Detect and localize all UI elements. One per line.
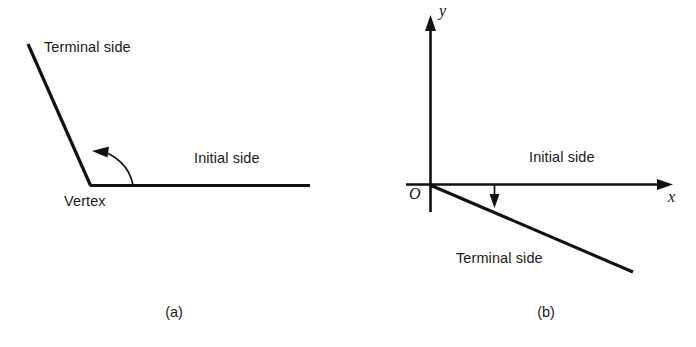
panel-caption-b: (b) bbox=[522, 304, 570, 320]
rotation-arrowhead-a bbox=[92, 147, 109, 158]
panel-a: Terminal side Initial side Vertex (a) bbox=[0, 0, 348, 347]
initial-side-label-a: Initial side bbox=[194, 150, 260, 166]
rotation-arc-a bbox=[98, 151, 134, 186]
x-axis-label: x bbox=[668, 188, 675, 206]
vertex-label-a: Vertex bbox=[64, 193, 106, 209]
rotation-arrowhead-b bbox=[490, 194, 500, 208]
origin-label: O bbox=[409, 185, 421, 203]
panel-b: Initial side Terminal side O y x (b) bbox=[348, 0, 696, 347]
y-axis-arrowhead bbox=[425, 15, 436, 31]
initial-side-label-b: Initial side bbox=[529, 149, 595, 165]
y-axis-label: y bbox=[439, 2, 446, 20]
terminal-side-label-b: Terminal side bbox=[456, 250, 543, 266]
figure-root: Terminal side Initial side Vertex (a) In… bbox=[0, 0, 696, 347]
terminal-side-label-a: Terminal side bbox=[44, 39, 131, 55]
terminal-side-line-a bbox=[28, 44, 91, 186]
panel-b-drawing bbox=[348, 0, 696, 347]
panel-caption-a: (a) bbox=[150, 304, 198, 320]
